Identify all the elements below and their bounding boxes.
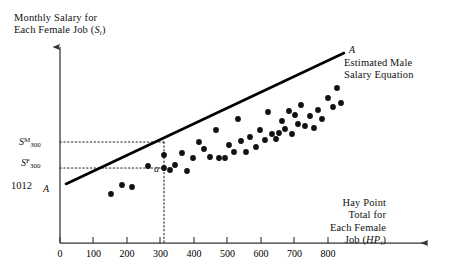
scatter-point <box>273 136 279 142</box>
scatter-point <box>235 116 241 122</box>
scatter-point <box>279 118 285 124</box>
x-tick-label-100: 100 <box>86 248 101 259</box>
scatter-point <box>238 138 244 144</box>
x-axis-title-line4-prefix: Job ( <box>345 234 366 245</box>
regression-line-caption: Estimated MaleSalary Equation <box>344 57 414 82</box>
scatter-point <box>247 134 253 140</box>
y-axis-title-line2-prefix: Each Female Job ( <box>14 24 94 35</box>
scatter-point <box>179 150 185 156</box>
scatter-point <box>330 104 336 110</box>
sf-subscript: 300 <box>30 162 41 170</box>
sm-subscript: 300 <box>30 141 41 149</box>
scatter-point <box>265 109 271 115</box>
label-female-salary-at-300: SF300 <box>21 157 40 170</box>
scatter-point <box>334 85 340 91</box>
scatter-point <box>231 149 237 155</box>
scatter-point-a <box>161 165 167 171</box>
scatter-point <box>286 108 292 114</box>
regression-line-estimated-male-salary <box>66 53 344 184</box>
scatter-point <box>222 155 228 161</box>
scatter-point <box>145 163 151 169</box>
y-axis-title-line1: Monthly Salary for <box>14 12 97 23</box>
x-tick-label-400: 400 <box>187 248 202 259</box>
scatter-point <box>243 149 249 155</box>
x-tick-label-700: 700 <box>287 248 302 259</box>
scatter-point <box>257 127 263 133</box>
scatter-point <box>319 116 325 122</box>
x-axis-title-line4-suffix: ) <box>383 234 387 245</box>
y-intercept-label: 1012 <box>11 180 32 192</box>
x-axis-title-line1: Hay Point <box>330 197 386 209</box>
scatter-point <box>302 123 308 129</box>
x-axis-title: Hay PointTotal forEach FemaleJob (HPi) <box>330 197 386 247</box>
scatter-point <box>226 142 232 148</box>
scatter-point <box>108 191 114 197</box>
x-axis-ticks <box>60 237 328 243</box>
scatter-point <box>184 168 190 174</box>
scatter-point <box>213 127 219 133</box>
regression-line-label-lower: A <box>43 183 49 195</box>
scatter-point <box>295 121 301 127</box>
x-axis-title-line4: Job (HPi) <box>330 234 386 247</box>
scatter-point <box>172 162 178 168</box>
x-tick-label-0: 0 <box>58 248 63 259</box>
x-axis-title-line2: Total for <box>330 209 386 221</box>
scatter-point <box>338 100 344 106</box>
caption-line2: Salary Equation <box>344 69 414 81</box>
scatter-point <box>315 107 321 113</box>
x-tick-label-300: 300 <box>153 248 168 259</box>
scatter-point <box>325 95 331 101</box>
scatter-point <box>216 155 222 161</box>
scatter-point <box>207 154 213 160</box>
scatter-point <box>167 167 173 173</box>
scatter-point <box>253 144 259 150</box>
scatter-point <box>129 184 135 190</box>
x-tick-label-800: 800 <box>321 248 336 259</box>
scatter-point <box>311 125 317 131</box>
scatter-point <box>119 182 125 188</box>
scatter-point <box>298 102 304 108</box>
scatter-point <box>269 131 275 137</box>
scatter-point <box>196 139 202 145</box>
y-axis-title-line2-suffix: ) <box>102 24 106 35</box>
x-axis-title-variable: HP <box>366 234 380 245</box>
scatter-point <box>276 130 282 136</box>
regression-line-label-upper: A <box>349 44 355 56</box>
scatter-plot-figure: Monthly Salary forEach Female Job (Si) H… <box>0 0 451 276</box>
x-tick-label-500: 500 <box>220 248 235 259</box>
label-male-salary-at-300: SM300 <box>19 136 41 149</box>
scatter-points <box>108 85 344 197</box>
x-axis-title-line3: Each Female <box>330 222 386 234</box>
scatter-point <box>292 112 298 118</box>
scatter-point <box>307 113 313 119</box>
x-tick-label-600: 600 <box>254 248 269 259</box>
x-tick-label-200: 200 <box>120 248 135 259</box>
scatter-point <box>201 146 207 152</box>
scatter-point <box>190 155 196 161</box>
scatter-point <box>161 152 167 158</box>
point-a-label: a <box>154 163 159 175</box>
caption-line1: Estimated Male <box>344 57 414 69</box>
scatter-point <box>289 131 295 137</box>
scatter-point <box>262 137 268 143</box>
scatter-point <box>282 126 288 132</box>
y-axis-title: Monthly Salary forEach Female Job (Si) <box>14 12 106 37</box>
